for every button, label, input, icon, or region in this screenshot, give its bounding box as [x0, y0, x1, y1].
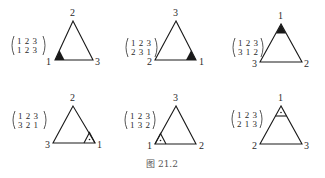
- left-paren: [126, 38, 128, 57]
- right-paren: [260, 110, 262, 128]
- left-paren: [233, 38, 235, 57]
- panel-rotation-2: 1 2 3 3 1 2 1 3 2: [233, 10, 309, 69]
- triangle: [53, 106, 95, 143]
- permutation-matrix: 1 2 3 3 2 1: [13, 111, 46, 130]
- filled-corner-marker: [276, 24, 286, 34]
- figure-caption: 图 21.2: [146, 159, 178, 169]
- vertex-label-left: 3: [252, 58, 257, 69]
- vertex-label-right: 2: [304, 58, 309, 69]
- filled-corner-marker: [186, 51, 196, 61]
- permutation-matrix: 1 2 3 1 2 3: [12, 36, 45, 55]
- vertex-label-right: 1: [199, 56, 204, 67]
- vertex-label-apex: 3: [173, 7, 178, 18]
- left-paren: [125, 111, 127, 129]
- panel-reflection-1: 1 2 3 3 2 1 2 3 1: [13, 92, 102, 150]
- left-paren: [12, 36, 14, 55]
- left-paren: [232, 110, 234, 128]
- panel-identity: 1 2 3 1 2 3 2 1 3: [12, 7, 100, 67]
- vertex-label-left: 3: [45, 139, 50, 150]
- vertex-label-apex: 1: [278, 92, 283, 103]
- matrix-bottom-row: 1 3 2: [130, 120, 151, 130]
- matrix-bottom-row: 1 2 3: [17, 45, 38, 55]
- vertex-label-apex: 2: [70, 92, 75, 103]
- permutation-matrix: 1 2 3 1 3 2: [125, 111, 155, 130]
- right-paren: [261, 38, 263, 57]
- vertex-label-left: 1: [46, 56, 51, 67]
- permutation-matrix: 1 2 3 2 3 1: [126, 38, 157, 57]
- permutation-matrix: 1 2 3 3 1 2: [233, 38, 263, 57]
- vertex-label-right: 3: [95, 56, 100, 67]
- vertex-label-right: 2: [199, 140, 204, 151]
- vertex-label-left: 2: [147, 56, 152, 67]
- panel-reflection-2: 1 2 3 1 3 2 3 1 2: [125, 92, 204, 151]
- right-paren: [44, 111, 46, 129]
- corner-dot: [280, 112, 282, 114]
- corner-dot: [89, 139, 91, 141]
- vertex-label-right: 3: [304, 140, 309, 151]
- vertex-label-left: 2: [252, 140, 257, 151]
- panel-rotation-1: 1 2 3 2 3 1 3 2 1: [126, 7, 204, 67]
- right-paren: [43, 36, 45, 55]
- vertex-label-right: 1: [97, 139, 102, 150]
- right-paren: [153, 111, 155, 129]
- matrix-bottom-row: 3 2 1: [18, 120, 39, 130]
- matrix-bottom-row: 2 1 3: [237, 119, 258, 129]
- filled-corner-marker: [55, 50, 65, 60]
- panel-reflection-3: 1 2 3 2 1 3 1 2 3: [232, 92, 309, 151]
- permutation-matrix: 1 2 3 2 1 3: [232, 110, 262, 129]
- left-paren: [13, 111, 15, 129]
- vertex-label-left: 1: [147, 140, 152, 151]
- corner-dot: [160, 140, 162, 142]
- vertex-label-apex: 1: [278, 10, 283, 21]
- right-paren: [155, 38, 157, 57]
- triangle: [155, 106, 196, 144]
- vertex-label-apex: 2: [70, 7, 75, 18]
- vertex-label-apex: 3: [173, 92, 178, 103]
- triangle: [260, 106, 302, 144]
- matrix-bottom-row: 3 1 2: [238, 47, 259, 57]
- figure-21-2: 1 2 3 1 2 3 2 1 3 1 2 3 2 3 1 3 2 1 1 2 …: [0, 0, 325, 178]
